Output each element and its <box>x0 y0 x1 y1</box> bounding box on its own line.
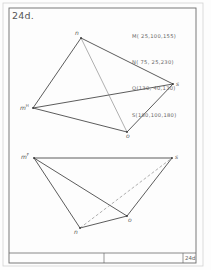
edge-n-o-top <box>81 38 127 132</box>
label-s-front: s <box>175 154 178 160</box>
label-o-top: o <box>126 133 130 139</box>
point-m-coords: M( 25,100,155) <box>132 32 177 41</box>
point-coordinates: M( 25,100,155) N( 75, 25,230) O(130, 40,… <box>132 14 177 137</box>
label-m-front: mF <box>21 153 29 160</box>
edge-m-o-top <box>33 108 127 132</box>
edge-n-s-front-hidden <box>80 158 172 228</box>
problem-title: 24d. <box>12 10 34 21</box>
edge-m-n-front <box>34 158 80 228</box>
label-n-front: n <box>74 229 78 235</box>
label-m-front-sup: F <box>27 152 29 157</box>
edge-n-o-front <box>80 216 127 228</box>
edge-n-m-top <box>33 38 81 108</box>
label-s-top: s <box>176 81 179 87</box>
drawing-sheet: 24d. M( 25,100,155) N( 75, 25,230) O(130… <box>0 0 211 270</box>
front-view <box>34 158 172 228</box>
title-block-id: 24d <box>185 255 196 261</box>
point-n-coords: N( 75, 25,230) <box>132 58 177 67</box>
label-o-front: o <box>128 217 132 223</box>
point-s-coords: S(180,100,180) <box>132 111 177 120</box>
label-n-top: n <box>75 30 79 36</box>
point-o-coords: O(130, 40,130) <box>132 84 177 93</box>
drawing-canvas <box>0 0 211 270</box>
label-m-top: mH <box>20 104 29 111</box>
edge-m-o-front <box>34 158 127 216</box>
label-m-top-sup: H <box>26 103 29 108</box>
